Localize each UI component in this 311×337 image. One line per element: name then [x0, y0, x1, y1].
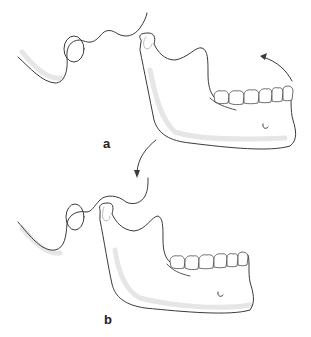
panel-a: a: [18, 13, 296, 151]
panel-b: b: [18, 178, 253, 327]
arrow-head-icon: [260, 53, 267, 60]
jaw-diagram: a b: [0, 0, 311, 337]
teeth-a: [214, 86, 293, 105]
panel-label-b: b: [104, 312, 112, 327]
condyle-inner-b: [103, 207, 111, 221]
mental-foramen-b: [218, 292, 223, 296]
skull-base-a: [18, 13, 147, 83]
arrow-head-icon: [134, 170, 140, 178]
skull-shading-a: [22, 52, 62, 78]
translation-arrow: [137, 140, 156, 172]
mental-foramen-a: [263, 124, 268, 128]
rotation-arrow-a: [263, 57, 292, 81]
condyle-inner-a: [144, 37, 152, 49]
panel-label-a: a: [103, 136, 111, 151]
articular-eminence-a: [64, 36, 84, 62]
teeth-b: [170, 252, 248, 270]
skull-shading-b: [22, 228, 60, 253]
articular-eminence-b: [66, 204, 84, 230]
skull-base-b: [18, 178, 148, 250]
